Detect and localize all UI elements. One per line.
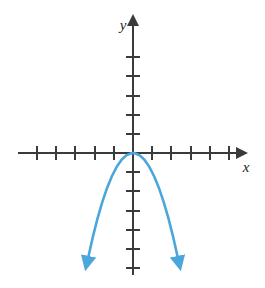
parabola-graph: x y	[0, 0, 265, 288]
parabola-right-branch	[133, 153, 178, 259]
parabola-left-branch	[88, 153, 133, 259]
figure-container: x y	[0, 0, 265, 288]
x-axis-label: x	[242, 159, 250, 175]
y-axis-label: y	[118, 17, 127, 33]
y-axis-group: y	[118, 17, 140, 275]
